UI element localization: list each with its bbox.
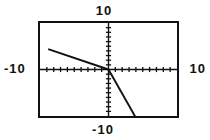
graphing-calculator-plot: 10 -10 10 -10 bbox=[0, 0, 210, 140]
data-series-group bbox=[48, 49, 144, 116]
axis-label-y-max: 10 bbox=[0, 4, 210, 17]
axis-label-y-min: -10 bbox=[0, 123, 210, 136]
axis-label-x-max: 10 bbox=[190, 62, 206, 75]
plot-frame bbox=[38, 21, 179, 118]
series-steep-line bbox=[109, 70, 145, 117]
axis-label-y-min-text: -10 bbox=[92, 123, 114, 136]
plot-canvas bbox=[40, 23, 177, 116]
axis-label-y-max-text: 10 bbox=[96, 4, 112, 17]
series-shallow-line bbox=[48, 49, 108, 69]
axis-label-x-min: -10 bbox=[4, 62, 26, 75]
